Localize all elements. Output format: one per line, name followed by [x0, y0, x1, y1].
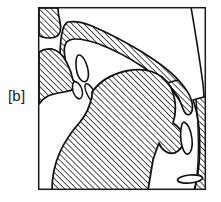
vocal-tract-figure: [b] [0, 0, 221, 202]
upper-lip [39, 8, 61, 38]
vocal-tract-diagram [0, 0, 221, 202]
